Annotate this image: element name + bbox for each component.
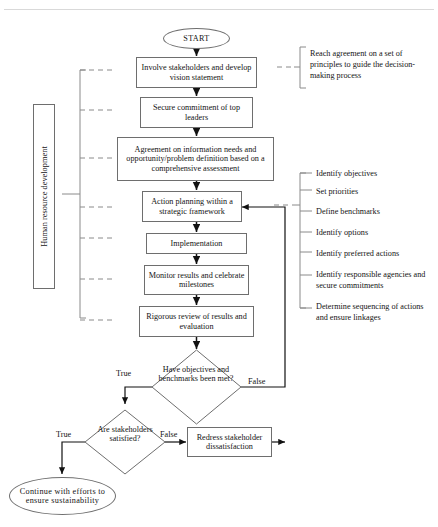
objectives-false-path (241, 207, 285, 387)
node-rigorous-review[interactable]: Rigorous review of results and evaluatio… (139, 306, 254, 337)
node-action-planning[interactable]: Action planning within a strategic frame… (142, 191, 242, 222)
planning-item-5-text: Identify responsible agencies and secure… (316, 270, 425, 290)
node-monitor-results[interactable]: Monitor results and celebrate milestones (144, 265, 249, 295)
node-redress-dissatisfaction[interactable]: Redress stakeholder dissatisfaction (187, 427, 272, 457)
planning-item-4-text: Identify preferred actions (316, 249, 399, 258)
annotation-hrd-text: Human resource development (40, 146, 49, 246)
edge-label-objectives-false-text: False (248, 377, 265, 386)
edge-label-stakeholders-true-text: True (56, 430, 71, 439)
node-involve-stakeholders[interactable]: Involve stakeholders and develop vision … (136, 57, 257, 88)
node-agreement-information[interactable]: Agreement on information needs and oppor… (117, 137, 274, 181)
annotation-principles: Reach agreement on a set of principles t… (310, 48, 434, 81)
node-secure-commitment-label: Secure commitment of top leaders (144, 103, 249, 122)
planning-item-6: Determine sequencing of actions and ensu… (316, 301, 434, 323)
planning-item-3: Identify options (316, 227, 368, 238)
principles-bracket (294, 47, 306, 88)
decision-stakeholders-shape (85, 410, 165, 474)
node-start-label: START (183, 34, 209, 43)
header-rule (4, 9, 434, 10)
planning-item-5: Identify responsible agencies and secure… (316, 269, 434, 291)
planning-item-6-text: Determine sequencing of actions and ensu… (316, 302, 424, 322)
annotation-principles-text: Reach agreement on a set of principles t… (310, 49, 415, 80)
edge-label-stakeholders-false: False (160, 430, 177, 439)
planning-item-0: Identify objectives (316, 168, 377, 179)
planning-item-2-text: Define benchmarks (316, 207, 380, 216)
node-implementation[interactable]: Implementation (146, 233, 247, 254)
node-redress-dissatisfaction-label: Redress stakeholder dissatisfaction (191, 433, 268, 452)
node-rigorous-review-label: Rigorous review of results and evaluatio… (143, 312, 250, 331)
hrd-bracket (62, 70, 86, 318)
flowchart-canvas: START Involve stakeholders and develop v… (0, 0, 438, 527)
decision-objectives-shape (152, 350, 241, 424)
node-continue-sustainability[interactable]: Continue with efforts to ensure sustaina… (9, 477, 116, 515)
node-monitor-results-label: Monitor results and celebrate milestones (148, 271, 245, 290)
planning-item-0-text: Identify objectives (316, 169, 377, 178)
stakeholders-true-path (62, 442, 85, 474)
planning-item-4: Identify preferred actions (316, 248, 399, 259)
node-secure-commitment[interactable]: Secure commitment of top leaders (140, 97, 253, 128)
annotation-hrd-box: Human resource development (33, 104, 55, 289)
edge-label-objectives-true: True (116, 369, 131, 378)
node-continue-sustainability-label: Continue with efforts to ensure sustaina… (14, 487, 111, 506)
node-implementation-label: Implementation (171, 239, 223, 248)
node-involve-stakeholders-label: Involve stakeholders and develop vision … (140, 63, 253, 82)
planning-item-1: Set priorities (316, 186, 358, 197)
planning-item-1-text: Set priorities (316, 187, 358, 196)
edge-label-stakeholders-true: True (56, 430, 71, 439)
planning-item-2: Define benchmarks (316, 206, 380, 217)
node-action-planning-label: Action planning within a strategic frame… (146, 197, 238, 216)
planning-items-bracket (294, 173, 312, 308)
node-agreement-information-label: Agreement on information needs and oppor… (121, 145, 270, 173)
hrd-dashed-connectors (80, 70, 116, 320)
edge-label-stakeholders-false-text: False (160, 430, 177, 439)
objectives-true-path (125, 387, 152, 404)
edge-label-objectives-true-text: True (116, 369, 131, 378)
planning-item-3-text: Identify options (316, 228, 368, 237)
edge-label-objectives-false: False (248, 377, 265, 386)
node-start[interactable]: START (163, 28, 230, 49)
